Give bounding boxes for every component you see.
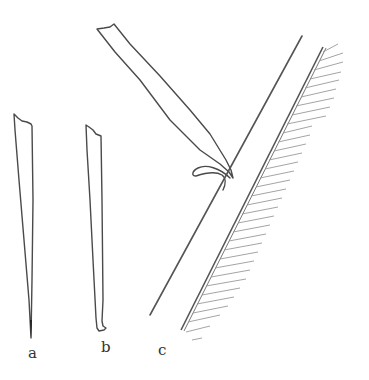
- label-b: b: [101, 340, 111, 355]
- blade-a: [14, 114, 33, 338]
- blade-c: [97, 24, 343, 340]
- blade-b: [86, 125, 106, 331]
- label-a: a: [28, 346, 37, 361]
- label-c: c: [158, 343, 166, 358]
- hatching: [186, 44, 343, 340]
- blade-diagram: [0, 0, 369, 380]
